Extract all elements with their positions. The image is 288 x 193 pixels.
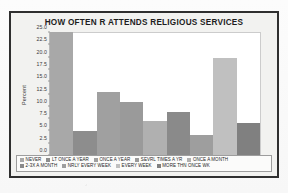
legend-item: SEVRL TIMES A YR [135,158,182,163]
y-tick-label: 17.5 [37,61,51,67]
plot-area: 0.02.55.07.510.012.515.017.520.022.525.0 [49,32,261,157]
legend-swatch-icon [20,158,24,162]
legend-swatch-icon [94,158,98,162]
y-axis-label: Percent [21,85,27,105]
y-tick-label: 7.5 [39,110,50,116]
legend-label: ONCE A MONTH [193,158,228,163]
legend-swatch-icon [62,164,66,168]
bar-series [50,33,260,156]
chart-figure: HOW OFTEN R ATTENDS RELIGIOUS SERVICES P… [9,11,279,178]
chart-title: HOW OFTEN R ATTENDS RELIGIOUS SERVICES [11,18,277,27]
legend-item: 2-3X A MONTH [20,164,57,169]
y-tick-label: 10.0 [37,98,51,104]
legend-item: ONCE A MONTH [187,158,228,163]
legend-label: NEVER [26,158,42,163]
legend-row-1: NEVERLT ONCE A YEARONCE A YEARSEVRL TIME… [20,158,268,163]
legend-label: SEVRL TIMES A YR [141,158,182,163]
legend-item: NEVER [20,158,41,163]
y-tick-label: 25.0 [37,24,51,30]
y-tick-label: 20.0 [37,49,51,55]
legend-item: LT ONCE A YEAR [46,158,89,163]
legend-label: MORE THN ONCE WK [162,164,209,169]
chart-legend: NEVERLT ONCE A YEARONCE A YEARSEVRL TIME… [16,155,272,172]
y-tick-label: 2.5 [39,135,50,141]
bar [73,131,96,156]
y-tick-label: 12.5 [37,86,51,92]
bar [190,135,213,156]
y-tick-label: 22.5 [37,36,51,42]
legend-swatch-icon [135,158,139,162]
legend-item: MORE THN ONCE WK [157,164,210,169]
legend-swatch-icon [46,158,50,162]
y-tick-label: 5.0 [39,122,50,128]
legend-item: ONCE A YEAR [94,158,130,163]
legend-label: EVERY WEEK [122,164,152,169]
legend-label: LT ONCE A YEAR [52,158,89,163]
y-tick-label: 15.0 [37,73,51,79]
legend-item: EVERY WEEK [116,164,152,169]
legend-label: ONCE A YEAR [100,158,131,163]
bar [143,121,166,156]
legend-swatch-icon [157,164,161,168]
legend-swatch-icon [187,158,191,162]
legend-swatch-icon [116,164,120,168]
legend-label: NRLY EVERY WEEK [68,164,111,169]
bar [213,58,236,156]
bar [120,102,143,156]
bar [237,123,260,156]
bar [167,112,190,156]
bar [97,92,120,156]
legend-item: NRLY EVERY WEEK [62,164,111,169]
screenshot-root: HOW OFTEN R ATTENDS RELIGIOUS SERVICES P… [0,0,288,193]
bar [50,32,73,156]
legend-label: 2-3X A MONTH [26,164,58,169]
y-tick-label: 0.0 [39,147,50,153]
legend-swatch-icon [20,164,24,168]
legend-row-2: 2-3X A MONTHNRLY EVERY WEEKEVERY WEEKMOR… [20,164,268,169]
